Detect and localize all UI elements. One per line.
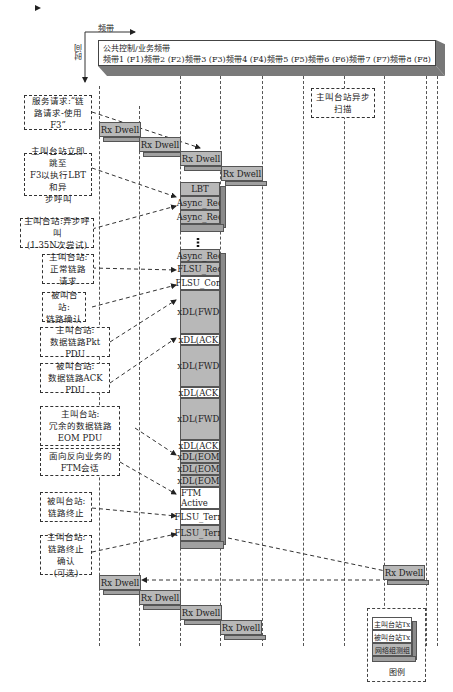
note-link-confirm: 被叫台站: 链路确认 — [42, 292, 86, 322]
stack1-side — [220, 186, 226, 228]
stack2-xdl-eom: xDL(EOM) — [180, 463, 220, 475]
stack1-lbt: LBT — [180, 182, 220, 196]
stack2-flsu-term: FLSU_Term — [180, 509, 220, 525]
rx-dwell-shadow — [225, 181, 267, 186]
rx-dwell-bottom-f1: Rx Dwell — [99, 575, 141, 590]
stack2-ftm-active: FTM Active — [180, 487, 220, 509]
stack2-xdl-fwd: xDL(FWD) — [180, 290, 220, 334]
note-eom-pdu: 主叫台站: 冗余的数据链路 EOM PDU — [40, 406, 120, 446]
rx-dwell-shadow — [387, 580, 429, 585]
rx-dwell-f2: Rx Dwell — [139, 137, 181, 152]
stack2-xdl-eom: xDL(EOM) — [180, 451, 220, 463]
stack2-side — [220, 253, 226, 545]
legend-caller-tx: 主叫台站Tx — [372, 617, 412, 630]
note-pkt-pdu: 主叫台站: 数据链路Pkt PDU — [40, 327, 110, 357]
legend-bottom — [372, 656, 416, 662]
note-jump-f3: 主叫台站立即跳至 F3以执行LBT和异 步呼叫 — [24, 153, 92, 196]
note-ftm-session: 面向反向业务的 FTM会话 — [40, 448, 120, 476]
stack2-async-req: Async_Req — [180, 249, 220, 262]
stack1-bottom — [180, 224, 224, 232]
note-link-term-ack: 主叫台站: 链路终止确认 (可选) — [40, 535, 92, 575]
stack2-flsu-term: FLSU_Term — [180, 525, 220, 541]
rx-dwell-shadow — [143, 152, 185, 157]
note-async-call: 主叫台站:异步呼叫 (1.35N次尝试) — [20, 218, 94, 248]
rx-dwell-bottom-f2: Rx Dwell — [139, 590, 181, 605]
stack2-flsu-conf: FLSU_Conf — [180, 276, 220, 290]
rx-dwell-bottom-f4: Rx Dwell — [220, 620, 262, 635]
stack1-async-req: Async_Req — [180, 196, 220, 210]
stack2-flsu-req: FLSU_Req — [180, 262, 220, 276]
stack2-xdl-fwd: xDL(FWD) — [180, 398, 220, 440]
rx-dwell-shadow — [143, 605, 185, 610]
note-async-scan: 主叫台站异步 扫描 — [311, 88, 375, 118]
note-link-term: 被叫台站: 链路终止 — [40, 492, 92, 522]
rx-dwell-shadow — [184, 166, 226, 171]
legend: 主叫台站Tx 被叫台站Tx 网络组测组 图例 — [367, 608, 426, 682]
rx-dwell-f4: Rx Dwell — [221, 166, 263, 181]
rx-dwell-f3: Rx Dwell — [180, 151, 222, 166]
legend-network-group: 网络组测组 — [372, 643, 412, 656]
stack2-xdl-ack: xDL(ACK) — [180, 440, 220, 451]
stack2-bottom — [180, 541, 224, 549]
legend-title: 图例 — [368, 666, 425, 677]
stack2-xdl-eom: xDL(EOM) — [180, 475, 220, 487]
rx-dwell-f1: Rx Dwell — [99, 122, 141, 137]
stack2-xdl-ack: xDL(ACK) — [180, 334, 220, 345]
rx-dwell-bottom-f3: Rx Dwell — [180, 605, 222, 620]
rx-dwell-shadow — [224, 635, 266, 640]
note-service-request: 服务请求:“链 路请求-使用F3” — [24, 95, 92, 130]
note-ack-pdu: 被叫台站: 数据链路ACK PDU — [40, 363, 110, 393]
stack2-xdl-ack: xDL(ACK) — [180, 387, 220, 398]
legend-called-tx: 被叫台站Tx — [372, 630, 412, 643]
stack2-xdl-fwd: xDL(FWD) — [180, 345, 220, 387]
legend-side — [412, 621, 417, 660]
rx-dwell-f7: Rx Dwell — [383, 565, 425, 580]
note-normal-link-request: 主叫台站: 正常链路请求 — [42, 254, 94, 284]
stack1-async-req: Async_Req — [180, 210, 220, 224]
